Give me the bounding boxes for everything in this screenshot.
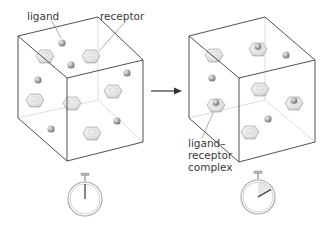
cube-front-edges <box>18 17 143 161</box>
ligand-receptor-complex-icon <box>207 99 225 112</box>
cube-hidden-edges <box>189 17 315 142</box>
receptor-icon <box>63 97 81 110</box>
ligand-icon <box>67 61 74 68</box>
receptor-icon <box>241 126 259 139</box>
right-arrow-icon <box>151 88 182 95</box>
cube-after: ligand– receptor complex <box>188 17 315 173</box>
ligand-icon <box>47 125 54 132</box>
receptor-leader-line <box>99 21 126 51</box>
diagram-canvas: ligand receptor <box>0 0 325 227</box>
ligand-icon <box>282 51 289 58</box>
receptor-icon <box>36 50 54 63</box>
ligand-receptor-complex-icon <box>285 97 303 110</box>
receptor-icon <box>104 85 122 98</box>
receptor-icon <box>251 83 269 96</box>
receptor-label: receptor <box>100 10 145 22</box>
receptor-icon <box>83 127 101 140</box>
receptors-after <box>205 49 269 139</box>
receptor-icon <box>82 50 100 63</box>
ligand-icon <box>208 74 215 81</box>
ligand-label: ligand <box>27 10 59 22</box>
complex-label-line2: receptor <box>188 149 233 161</box>
ligand-icon <box>123 69 130 76</box>
stopwatch-start-icon <box>68 173 102 216</box>
complex-label-line3: complex <box>188 161 233 173</box>
cube-before: ligand receptor <box>18 10 145 161</box>
ligand-icon <box>58 39 65 46</box>
stopwatch-elapsed-icon <box>241 171 275 214</box>
complex-label-line1: ligand– <box>188 137 226 149</box>
ligand-receptor-complex-icon <box>249 43 267 56</box>
receptor-icon <box>205 49 223 62</box>
ligand-icon <box>34 76 41 83</box>
ligand-icon <box>264 115 271 122</box>
receptor-icon <box>26 94 44 107</box>
ligand-leader-line <box>52 21 61 38</box>
ligand-icon <box>113 117 120 124</box>
